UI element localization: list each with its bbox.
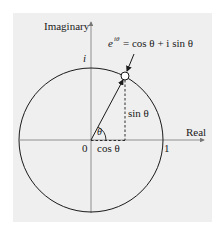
- point-on-circle: [121, 72, 129, 80]
- radius-vector: [91, 80, 123, 140]
- sin-label: sin θ: [128, 107, 149, 119]
- unit-circle-diagram: Imaginary Real 0 1 i θ cos θ sin θ e iθ …: [0, 0, 222, 234]
- imaginary-axis-label: Imaginary: [44, 20, 90, 32]
- origin-label: 0: [82, 142, 88, 154]
- euler-e: e: [108, 37, 113, 49]
- real-axis-label: Real: [186, 126, 206, 138]
- cos-label: cos θ: [97, 142, 120, 154]
- label-pointer-arrow: [127, 54, 134, 71]
- imag-one-label: i: [83, 52, 86, 64]
- real-one-label: 1: [164, 142, 170, 154]
- euler-exponent: iθ: [114, 35, 120, 43]
- angle-label: θ: [97, 126, 102, 137]
- euler-formula-rest: = cos θ + i sin θ: [123, 37, 193, 49]
